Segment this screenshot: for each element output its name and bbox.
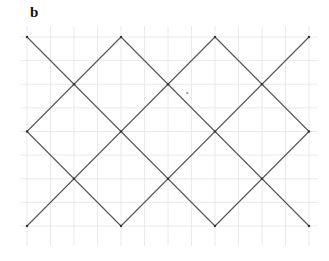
lattice-vertex <box>214 130 216 132</box>
lattice-vertex <box>308 36 310 38</box>
lattice-vertex <box>167 83 169 85</box>
lattice-vertex <box>261 83 263 85</box>
diamond-lattice-diagram: ∘ <box>0 0 329 261</box>
lattice-vertex <box>214 225 216 227</box>
lattice-vertex <box>73 178 75 180</box>
annotation-mark: ∘ <box>185 89 189 97</box>
lattice-vertex <box>120 130 122 132</box>
graph-paper-grid <box>20 26 318 246</box>
lattice-vertex <box>214 36 216 38</box>
lattice-vertex <box>26 130 28 132</box>
lattice-vertex <box>120 225 122 227</box>
lattice-vertex <box>26 36 28 38</box>
lattice-vertex <box>120 36 122 38</box>
lattice-vertex <box>73 83 75 85</box>
lattice-vertex <box>308 225 310 227</box>
lattice-vertex <box>261 178 263 180</box>
lattice-vertex <box>308 130 310 132</box>
lattice-vertex <box>26 225 28 227</box>
lattice-vertex <box>167 178 169 180</box>
